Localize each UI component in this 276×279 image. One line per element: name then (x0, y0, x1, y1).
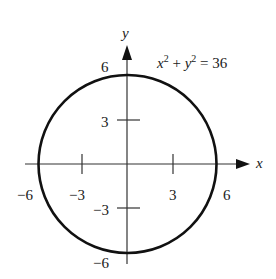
x-axis-arrow-icon (236, 159, 250, 169)
equation-label: x2 + y2 = 36 (156, 53, 228, 71)
x-axis-label: x (255, 155, 263, 171)
equation-rest: = 36 (196, 55, 227, 71)
y-axis-arrow-icon (122, 45, 132, 60)
tick-label-x-neg3: −3 (69, 187, 85, 203)
equation-y: y (183, 55, 192, 71)
tick-label-y-3: 3 (101, 114, 109, 130)
tick-label-x-neg6: −6 (17, 187, 33, 203)
equation-plus: + (169, 55, 185, 71)
y-axis-label: y (120, 25, 129, 41)
tick-label-y-neg3: −3 (93, 202, 109, 218)
tick-label-y-neg6: −6 (93, 255, 109, 271)
tick-label-x-3: 3 (169, 187, 177, 203)
tick-label-y-6: 6 (101, 59, 109, 75)
circle-graph: y x x2 + y2 = 36 −6 −3 3 6 6 3 −3 −6 (0, 0, 276, 279)
tick-label-x-6: 6 (223, 187, 231, 203)
